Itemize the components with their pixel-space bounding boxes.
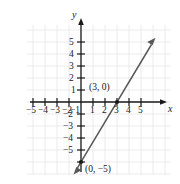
x-tick-label-1: 1 xyxy=(90,106,95,116)
y-tick-label-neg2: −2 xyxy=(63,110,73,120)
y-axis-label: y xyxy=(72,10,76,20)
point-label-x-intercept: (3, 0) xyxy=(89,83,110,93)
y-tick-label-3: 3 xyxy=(69,62,74,72)
y-tick-label-neg3: −3 xyxy=(63,122,73,132)
x-tick-label-neg4: −4 xyxy=(38,106,48,116)
coordinate-graph-figure: x y −5 −4 −3 −2 −1 1 2 3 4 5 5 4 3 2 1 −… xyxy=(0,0,180,184)
x-tick-label-5: 5 xyxy=(138,106,143,116)
x-tick-label-2: 2 xyxy=(102,106,107,116)
y-tick-label-5: 5 xyxy=(69,38,74,48)
point-0-neg5 xyxy=(79,160,83,164)
y-tick-label-neg4: −4 xyxy=(63,134,73,144)
x-axis-label: x xyxy=(168,104,172,114)
x-axis xyxy=(30,99,167,105)
x-tick-label-neg5: −5 xyxy=(26,106,36,116)
x-tick-label-4: 4 xyxy=(126,106,131,116)
x-tick-label-3: 3 xyxy=(114,106,119,116)
y-tick-label-4: 4 xyxy=(69,50,74,60)
point-label-y-intercept: (0, −5) xyxy=(85,165,111,175)
y-tick-label-2: 2 xyxy=(69,74,74,84)
x-tick-label-neg3: −3 xyxy=(50,106,60,116)
point-3-0 xyxy=(115,100,119,104)
y-axis xyxy=(78,18,84,172)
y-tick-label-neg5: −5 xyxy=(63,146,73,156)
y-tick-label-1: 1 xyxy=(71,86,76,96)
